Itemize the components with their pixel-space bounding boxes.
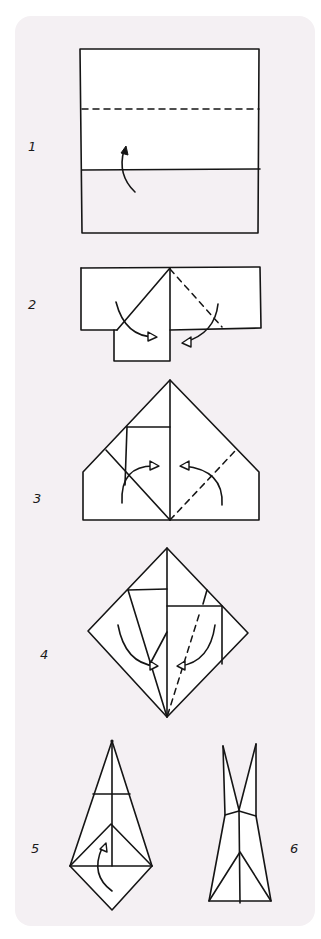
step-1-figure bbox=[80, 49, 260, 233]
step-6-figure bbox=[209, 744, 271, 903]
step-4-figure bbox=[88, 548, 248, 717]
step-number-6: 6 bbox=[290, 842, 298, 855]
step-number-5: 5 bbox=[31, 842, 39, 855]
step-5-figure bbox=[70, 739, 152, 910]
step-number-1: 1 bbox=[28, 140, 36, 153]
step-2-figure bbox=[81, 267, 261, 361]
step-number-3: 3 bbox=[33, 492, 41, 505]
step-number-4: 4 bbox=[40, 648, 48, 661]
step-number-2: 2 bbox=[28, 298, 36, 311]
origami-diagram bbox=[0, 0, 321, 939]
step-3-figure bbox=[83, 380, 259, 520]
